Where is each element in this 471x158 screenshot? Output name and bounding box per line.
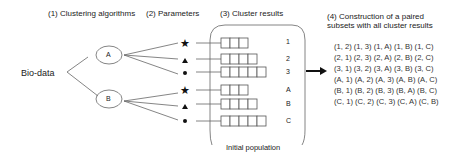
pair-row: (A, 1) (A, 2) (A, 3) (A, B) (A, C)	[334, 74, 439, 85]
pair-row: (C, 1) (C, 2) (C, 3) (C, A) (C, B)	[334, 96, 439, 107]
pair-row: (2, 1) (2, 3) (2, A) (2, B) (2, C)	[334, 52, 439, 63]
paired-subsets-list: (1, 2) (1, 3) (1, A) (1, B) (1, C) (2, 1…	[334, 41, 439, 108]
cluster-label-3: 3	[286, 68, 290, 75]
svg-text:★: ★	[180, 84, 190, 97]
pair-row: (1, 2) (1, 3) (1, A) (1, B) (1, C)	[334, 41, 439, 52]
pair-row: (B, 1) (B, 2) (B, 3) (B, A) (B, C)	[334, 85, 439, 96]
pair-row: (3, 1) (3, 2) (3, A) (3, B) (3, C)	[334, 63, 439, 74]
svg-text:★: ★	[180, 37, 190, 50]
initial-population-label: Initial population	[226, 143, 280, 152]
algorithm-a: A	[106, 51, 111, 58]
cluster-label-b: B	[286, 100, 291, 107]
cluster-label-2: 2	[286, 55, 290, 62]
cluster-label-c: C	[286, 117, 291, 124]
algorithm-b: B	[106, 95, 111, 102]
cluster-label-a: A	[286, 86, 291, 93]
cluster-label-1: 1	[286, 38, 290, 45]
